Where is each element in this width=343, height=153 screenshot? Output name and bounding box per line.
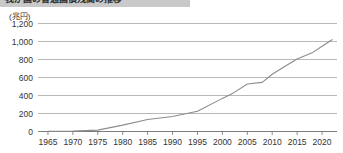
x-axis-tick-label: 1975 bbox=[88, 137, 107, 147]
data-series-group bbox=[48, 40, 332, 132]
y-axis-tick-label: 400 bbox=[19, 91, 33, 101]
gridlines-group bbox=[38, 24, 337, 132]
x-axis-tick-label: 1965 bbox=[39, 137, 58, 147]
x-axis-tick-label: 1980 bbox=[113, 137, 132, 147]
x-axis-tick-label: 2005 bbox=[238, 137, 257, 147]
x-axis-tick-label: 2010 bbox=[263, 137, 282, 147]
y-axis-tick-label: 1,200 bbox=[12, 19, 34, 29]
y-axis-tick-label: 0 bbox=[28, 127, 33, 137]
y-axis-tick-label: 200 bbox=[19, 109, 33, 119]
chart-svg: 02004006008001,0001,200 1965197019751980… bbox=[0, 0, 343, 153]
x-axis-tick-label: 1970 bbox=[63, 137, 82, 147]
x-axis-tick-marks bbox=[48, 132, 322, 136]
x-axis-tick-label: 2020 bbox=[313, 137, 332, 147]
x-axis-tick-label: 2000 bbox=[213, 137, 232, 147]
y-axis-tick-labels: 02004006008001,0001,200 bbox=[12, 19, 34, 137]
x-axis-tick-label: 2015 bbox=[288, 137, 307, 147]
series-line bbox=[48, 40, 332, 132]
x-axis-tick-label: 1985 bbox=[138, 137, 157, 147]
y-axis-tick-label: 800 bbox=[19, 55, 33, 65]
y-axis-tick-label: 600 bbox=[19, 73, 33, 83]
x-axis-tick-label: 1995 bbox=[188, 137, 207, 147]
x-axis-tick-labels: 1965197019751980198519901995200020052010… bbox=[39, 137, 332, 147]
y-axis-tick-label: 1,000 bbox=[12, 37, 34, 47]
line-chart: 02004006008001,0001,200 1965197019751980… bbox=[0, 0, 343, 153]
x-axis-tick-label: 1990 bbox=[163, 137, 182, 147]
